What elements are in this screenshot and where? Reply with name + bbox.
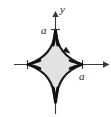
figure-canvas: y a a bbox=[0, 0, 111, 117]
y-axis-label: y bbox=[59, 3, 65, 15]
x-axis-arrowhead bbox=[103, 61, 110, 67]
a-label-vertical: a bbox=[41, 24, 47, 36]
astroid-curve-group bbox=[28, 31, 82, 102]
astroid-figure: y a a bbox=[0, 0, 111, 117]
a-label-horizontal: a bbox=[79, 70, 85, 82]
y-axis-arrowhead bbox=[52, 11, 58, 17]
